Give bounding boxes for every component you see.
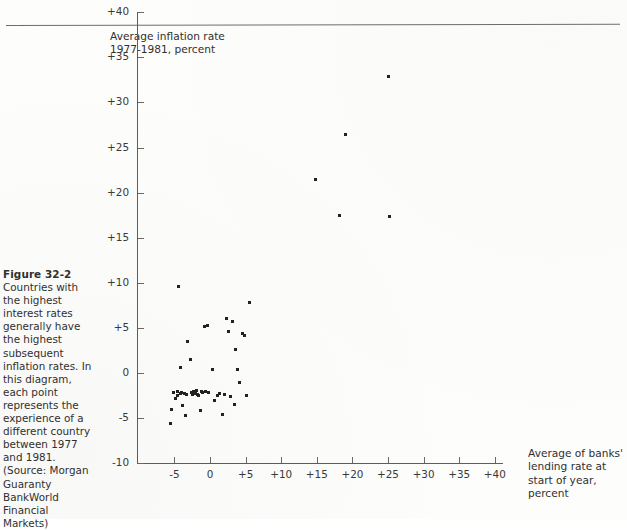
x-tick-mark: [424, 457, 425, 463]
data-point: [248, 301, 251, 304]
y-tick-label: -10: [101, 456, 129, 468]
data-point: [185, 393, 188, 396]
y-tick-mark: [138, 373, 144, 374]
y-tick-mark: [138, 463, 144, 464]
data-point: [199, 409, 202, 412]
data-point: [234, 348, 237, 351]
x-axis-title: Average of banks' lending rate at start …: [528, 447, 627, 501]
data-point: [211, 368, 214, 371]
y-tick-mark: [138, 328, 144, 329]
data-point: [177, 285, 180, 288]
data-point: [387, 75, 390, 78]
y-tick-label: +5: [101, 321, 129, 333]
y-tick-mark: [138, 12, 144, 13]
data-point: [179, 366, 182, 369]
y-tick-mark: [138, 57, 144, 58]
data-point: [314, 178, 317, 181]
y-tick-mark: [138, 238, 144, 239]
x-tick-label: +40: [480, 468, 510, 480]
x-tick-label: +15: [302, 468, 332, 480]
x-tick-label: +10: [266, 468, 296, 480]
data-point: [223, 393, 226, 396]
data-point: [238, 381, 241, 384]
x-tick-mark: [246, 457, 247, 463]
y-tick-mark: [138, 283, 144, 284]
x-tick-mark: [388, 457, 389, 463]
data-point: [338, 214, 341, 217]
data-point: [207, 391, 210, 394]
data-point: [184, 414, 187, 417]
x-tick-label: 0: [195, 468, 225, 480]
y-tick-mark: [138, 148, 144, 149]
data-point: [233, 403, 236, 406]
x-tick-mark: [210, 457, 211, 463]
y-tick-mark: [138, 193, 144, 194]
x-tick-label: +20: [337, 468, 367, 480]
data-point: [197, 394, 200, 397]
data-point: [189, 358, 192, 361]
data-point: [243, 334, 246, 337]
data-point: [245, 394, 248, 397]
data-point: [344, 133, 347, 136]
data-point: [231, 320, 234, 323]
x-tick-mark: [281, 457, 282, 463]
x-tick-mark: [317, 457, 318, 463]
x-tick-mark: [459, 457, 460, 463]
x-tick-label: +25: [373, 468, 403, 480]
data-point: [221, 413, 224, 416]
y-tick-mark: [138, 102, 144, 103]
y-tick-label: +40: [101, 5, 129, 17]
data-point: [186, 340, 189, 343]
y-tick-label: +30: [101, 95, 129, 107]
data-point: [227, 330, 230, 333]
y-tick-label: +25: [101, 141, 129, 153]
data-point: [213, 399, 216, 402]
x-tick-label: -5: [159, 468, 189, 480]
y-tick-label: +10: [101, 276, 129, 288]
x-tick-label: +30: [409, 468, 439, 480]
x-tick-label: +5: [231, 468, 261, 480]
data-point: [195, 389, 198, 392]
x-tick-mark: [174, 457, 175, 463]
data-point: [229, 395, 232, 398]
data-point: [169, 422, 172, 425]
x-axis-line: [137, 463, 503, 464]
data-point: [225, 317, 228, 320]
y-tick-mark: [138, 418, 144, 419]
y-tick-label: 0: [101, 366, 129, 378]
data-point: [172, 391, 175, 394]
data-point: [388, 215, 391, 218]
y-tick-label: +35: [101, 50, 129, 62]
data-point: [206, 324, 209, 327]
data-point: [174, 397, 177, 400]
y-tick-label: +15: [101, 231, 129, 243]
x-tick-mark: [495, 457, 496, 463]
x-tick-label: +35: [444, 468, 474, 480]
data-point: [170, 408, 173, 411]
y-tick-label: +20: [101, 186, 129, 198]
data-point: [218, 392, 221, 395]
y-tick-label: -5: [101, 411, 129, 423]
data-point: [181, 404, 184, 407]
data-point: [236, 368, 239, 371]
x-tick-mark: [352, 457, 353, 463]
